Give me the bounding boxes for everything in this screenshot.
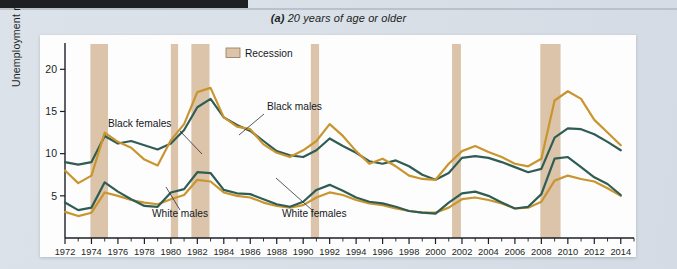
x-minor-ticks xyxy=(65,238,634,244)
y-axis-label: Unemployment rate (percent) xyxy=(10,0,22,87)
x-tick-label: 2004 xyxy=(478,247,499,257)
x-tick-label: 1974 xyxy=(81,247,102,257)
plot-area: 5101520197219741976197819801982198419861… xyxy=(40,35,636,257)
x-tick-label: 2014 xyxy=(610,247,631,257)
y-tick-label: 10 xyxy=(45,147,57,159)
x-tick-label: 2002 xyxy=(452,247,473,257)
x-tick-label: 1976 xyxy=(108,247,129,257)
legend-label-recession: Recession xyxy=(245,48,293,59)
x-tick-label: 1982 xyxy=(187,247,208,257)
x-tick-label: 1980 xyxy=(161,247,182,257)
line-chart-svg: 5101520197219741976197819801982198419861… xyxy=(40,35,636,257)
x-tick-label: 1992 xyxy=(319,247,340,257)
x-tick-label: 1972 xyxy=(55,247,76,257)
page-header-bar xyxy=(0,0,248,8)
x-tick-label: 1994 xyxy=(346,247,367,257)
x-tick-label: 1988 xyxy=(266,247,287,257)
series-group xyxy=(65,88,621,216)
annotation-white-males: White males xyxy=(152,208,208,219)
annotation-black-females: Black females xyxy=(108,118,171,129)
y-tick-label: 5 xyxy=(51,190,57,202)
x-tick-label: 1996 xyxy=(372,247,393,257)
chart-panel: Unemployment rate (percent) 510152019721… xyxy=(40,35,636,257)
series-line-white-males xyxy=(65,157,621,214)
x-tick-label: 1998 xyxy=(399,247,420,257)
legend-swatch-recession xyxy=(226,48,240,58)
x-tick-label: 2000 xyxy=(425,247,446,257)
x-tick-labels: 1972197419761978198019821984198619881990… xyxy=(55,247,631,257)
y-tick-label: 15 xyxy=(45,105,57,117)
series-line-black-females xyxy=(65,99,621,180)
annotation-black-males: Black males xyxy=(267,101,322,112)
x-tick-label: 1978 xyxy=(134,247,155,257)
x-tick-label: 2006 xyxy=(505,247,526,257)
recession-band-4 xyxy=(452,44,461,238)
figure-title: (a) 20 years of age or older xyxy=(0,12,677,24)
figure-title-text: 20 years of age or older xyxy=(288,12,407,24)
page-header-rule xyxy=(0,8,677,10)
x-tick-label: 2010 xyxy=(557,247,578,257)
x-tick-label: 1986 xyxy=(240,247,261,257)
y-tick-label: 20 xyxy=(45,63,57,75)
x-tick-label: 1984 xyxy=(213,247,234,257)
legend: Recession xyxy=(226,48,293,59)
x-tick-label: 1990 xyxy=(293,247,314,257)
x-tick-label: 2012 xyxy=(584,247,605,257)
x-tick-label: 2008 xyxy=(531,247,552,257)
figure-panel-label: (a) xyxy=(271,12,285,24)
y-ticks: 5101520 xyxy=(45,63,65,202)
annotation-white-females: White females xyxy=(282,208,347,219)
figure-root: (a) 20 years of age or older Unemploymen… xyxy=(0,0,677,269)
recession-band-5 xyxy=(540,44,560,238)
